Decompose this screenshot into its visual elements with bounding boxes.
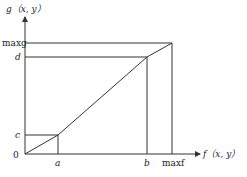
y-tick-maxg: maxg (2, 38, 27, 48)
y-tick-d: d (15, 52, 21, 62)
x-axis-label: f（x, y） (202, 149, 240, 159)
y-axis-label: g（x, y） (6, 4, 46, 14)
mapping-diagram: g（x, y） f（x, y） 0 maxg d c a b maxf (0, 0, 247, 177)
mapping-curve (25, 43, 172, 154)
x-tick-maxf: maxf (162, 158, 185, 168)
x-tick-b: b (144, 158, 150, 168)
x-tick-a: a (55, 158, 60, 168)
y-tick-c: c (15, 130, 20, 140)
origin-label: 0 (13, 150, 19, 160)
